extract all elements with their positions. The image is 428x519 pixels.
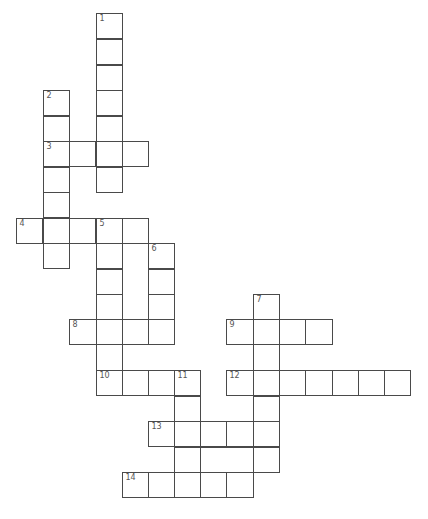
crossword-cell[interactable] [43, 192, 70, 218]
crossword-cell[interactable] [253, 319, 280, 345]
clue-number: 1 [100, 15, 105, 23]
crossword-cell[interactable] [148, 319, 175, 345]
crossword-cell[interactable]: 12 [226, 370, 254, 396]
crossword-cell[interactable] [174, 447, 201, 473]
crossword-cell[interactable]: 4 [16, 218, 43, 244]
crossword-cell[interactable]: 7 [253, 294, 280, 320]
crossword-cell[interactable] [253, 421, 280, 447]
crossword-cell[interactable] [226, 421, 254, 447]
crossword-cell[interactable] [96, 344, 123, 371]
crossword-cell[interactable] [122, 370, 149, 396]
clue-number: 11 [178, 372, 188, 380]
crossword-cell[interactable] [96, 167, 123, 193]
crossword-cell[interactable]: 8 [69, 319, 97, 345]
crossword-cell[interactable] [96, 141, 123, 167]
crossword-cell[interactable] [96, 269, 123, 295]
clue-number: 6 [152, 245, 157, 253]
crossword-cell[interactable] [96, 90, 123, 116]
clue-number: 13 [152, 423, 162, 431]
crossword-cell[interactable] [200, 472, 227, 498]
crossword-cell[interactable] [148, 294, 175, 320]
crossword-cell[interactable] [253, 344, 280, 371]
crossword-cell[interactable] [96, 319, 123, 345]
clue-number: 5 [100, 220, 105, 228]
clue-number: 4 [20, 220, 25, 228]
crossword-cell[interactable]: 3 [43, 141, 70, 167]
crossword-cell[interactable] [279, 370, 306, 396]
crossword-cell[interactable] [305, 370, 333, 396]
crossword-cell[interactable] [96, 116, 123, 142]
crossword-cell[interactable]: 13 [148, 421, 175, 447]
crossword-cell[interactable] [148, 472, 175, 498]
crossword-cell[interactable] [226, 472, 254, 498]
crossword-cell[interactable]: 1 [96, 13, 123, 39]
crossword-cell[interactable] [122, 141, 149, 167]
crossword-cell[interactable]: 11 [174, 370, 201, 396]
crossword-cell[interactable]: 2 [43, 90, 70, 116]
crossword-cell[interactable] [122, 218, 149, 244]
crossword-cell[interactable] [96, 39, 123, 65]
crossword-cell[interactable] [96, 243, 123, 269]
crossword-cell[interactable] [43, 243, 70, 269]
crossword-cell[interactable] [96, 294, 123, 320]
crossword-cell[interactable] [174, 472, 201, 498]
crossword-cell[interactable] [253, 447, 280, 473]
crossword-cell[interactable] [43, 167, 70, 193]
clue-number: 2 [47, 92, 52, 100]
crossword-cell[interactable] [279, 319, 306, 345]
crossword-cell[interactable]: 14 [122, 472, 149, 498]
crossword-cell[interactable]: 6 [148, 243, 175, 269]
crossword-cell[interactable] [122, 319, 149, 345]
crossword-cell[interactable] [69, 218, 96, 244]
crossword-cell[interactable]: 9 [226, 319, 254, 345]
crossword-cell[interactable] [305, 319, 333, 345]
crossword-cell[interactable] [148, 269, 175, 295]
crossword-cell[interactable]: 10 [96, 370, 123, 396]
clue-number: 12 [230, 372, 240, 380]
crossword-cell[interactable] [43, 116, 70, 142]
crossword-cell[interactable] [174, 421, 201, 447]
crossword-cell[interactable] [253, 396, 280, 422]
crossword-cell[interactable] [148, 370, 175, 396]
crossword-cell[interactable] [384, 370, 411, 396]
crossword-cell[interactable] [122, 243, 149, 320]
crossword-cell[interactable] [69, 141, 96, 167]
crossword-cell[interactable] [43, 218, 70, 244]
crossword-cell[interactable] [358, 370, 385, 396]
clue-number: 3 [47, 143, 52, 151]
crossword-cell[interactable] [332, 370, 359, 396]
clue-number: 10 [100, 372, 110, 380]
crossword-cell[interactable] [200, 447, 254, 473]
crossword-grid: 1234510687911121314 [0, 0, 428, 519]
clue-number: 9 [230, 321, 235, 329]
crossword-cell[interactable]: 5 [96, 218, 123, 244]
crossword-cell[interactable] [253, 370, 280, 396]
clue-number: 8 [73, 321, 78, 329]
crossword-cell[interactable] [200, 421, 227, 447]
clue-number: 14 [126, 474, 136, 482]
crossword-cell[interactable] [174, 396, 201, 422]
clue-number: 7 [257, 296, 262, 304]
crossword-cell[interactable] [96, 65, 123, 91]
